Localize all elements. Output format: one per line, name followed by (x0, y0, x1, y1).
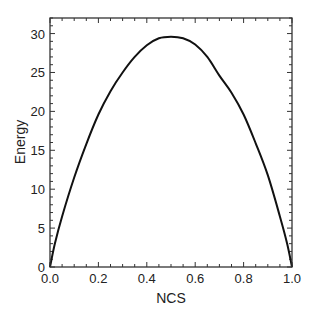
x-axis-title: NCS (156, 290, 186, 306)
y-tick-label: 10 (31, 182, 45, 197)
x-tick-label: 0.2 (89, 271, 107, 286)
y-tick-label: 30 (31, 27, 45, 42)
energy-curve (50, 37, 292, 267)
x-tick-label: 0.6 (186, 271, 204, 286)
y-tick-label: 15 (31, 143, 45, 158)
y-tick-label: 25 (31, 65, 45, 80)
x-tick-label: 0.4 (138, 271, 156, 286)
x-tick-label: 0.8 (235, 271, 253, 286)
y-tick-label: 20 (31, 104, 45, 119)
energy-vs-ncs-chart: 0.00.20.40.60.81.0051015202530 NCS Energ… (0, 0, 313, 317)
y-tick-label: 5 (38, 221, 45, 236)
y-tick-label: 0 (38, 260, 45, 275)
y-axis-title: Energy (12, 120, 28, 164)
x-tick-label: 1.0 (283, 271, 301, 286)
